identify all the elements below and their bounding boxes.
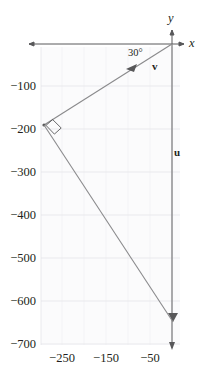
y-tick-label-2: −200 xyxy=(0,123,36,136)
x-tick-label-3: −50 xyxy=(130,352,170,365)
x-tick-label-2: −150 xyxy=(84,352,128,365)
y-axis-label: y xyxy=(168,12,174,25)
y-tick-label-7: −700 xyxy=(0,338,36,351)
y-tick-label-5: −500 xyxy=(0,252,36,265)
x-tick-label-1: −250 xyxy=(40,352,84,365)
vector-u-label: u xyxy=(174,147,180,158)
x-axis xyxy=(29,42,184,46)
vector-u-arrowhead xyxy=(169,342,175,350)
diagram-canvas xyxy=(0,0,205,378)
y-tick-label-4: −400 xyxy=(0,209,36,222)
vector-diagram-figure: −100 −200 −300 −400 −500 −600 −700 −250 … xyxy=(0,0,205,378)
y-tick-label-3: −300 xyxy=(0,166,36,179)
y-tick-label-6: −600 xyxy=(0,295,36,308)
x-axis-label: x xyxy=(189,37,195,50)
angle-label-30deg: 30° xyxy=(128,48,143,59)
y-tick-label-1: −100 xyxy=(0,80,36,93)
vector-v-label: v xyxy=(152,61,158,72)
y-axis xyxy=(170,30,174,44)
